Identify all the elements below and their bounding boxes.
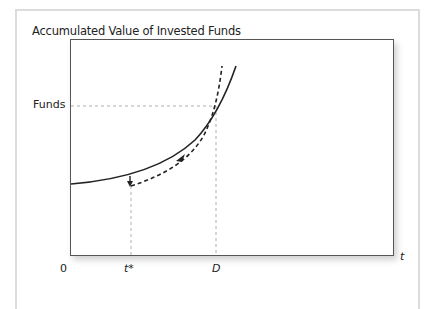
x-tick-d: D	[212, 262, 220, 275]
x-axis-label: t	[400, 250, 404, 263]
plot-area	[71, 40, 394, 256]
y-tick-funds: Funds	[33, 98, 65, 111]
x-tick-t-star: t*	[124, 262, 134, 275]
x-tick-origin: 0	[60, 262, 67, 275]
